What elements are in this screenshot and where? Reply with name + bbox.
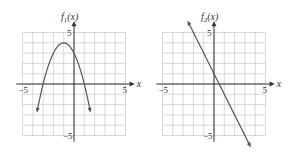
curve-arrow-icon <box>247 142 251 147</box>
x-axis-title: x <box>136 78 142 89</box>
f1-graph: f1(x)x−555−5 <box>16 11 142 142</box>
y-axis-title: f2(x) <box>201 11 219 24</box>
y-tick-neg5: −5 <box>203 131 213 141</box>
curve-arrow-icon <box>36 107 40 112</box>
function-graphs: f1(x)x−555−5f2(x)x−555−5 <box>0 0 293 156</box>
x-axis-arrow-icon <box>130 82 135 87</box>
x-axis-arrow-icon <box>270 82 275 87</box>
curve-arrow-icon <box>88 107 92 112</box>
x-tick-neg5: −5 <box>159 85 169 95</box>
y-tick-neg5: −5 <box>63 131 73 141</box>
y-tick-pos5: 5 <box>67 28 72 38</box>
x-axis-title: x <box>276 78 282 89</box>
y-tick-pos5: 5 <box>207 28 212 38</box>
x-tick-pos5: 5 <box>263 85 268 95</box>
x-tick-neg5: −5 <box>19 85 29 95</box>
curve-arrow-icon <box>187 21 191 26</box>
f2-graph: f2(x)x−555−5 <box>156 11 282 147</box>
x-tick-pos5: 5 <box>123 85 128 95</box>
y-axis-title: f1(x) <box>61 11 79 24</box>
